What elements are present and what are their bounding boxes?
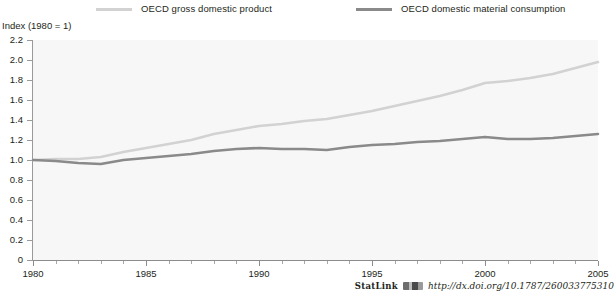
x-tick-minor — [236, 261, 237, 264]
y-tick-label: 1.2 — [0, 135, 23, 145]
x-tick-label: 1980 — [13, 269, 53, 279]
y-tick — [27, 240, 33, 241]
legend-label-gdp: OECD gross domestic product — [141, 4, 272, 14]
x-tick-minor — [395, 261, 396, 264]
x-tick-major — [598, 261, 599, 266]
y-tick-label: 0.8 — [0, 175, 23, 185]
x-tick-minor — [440, 261, 441, 264]
x-tick-label: 1990 — [239, 269, 279, 279]
x-tick-major — [485, 261, 486, 266]
y-axis-line — [32, 40, 33, 261]
x-tick-minor — [508, 261, 509, 264]
x-tick-label: 2005 — [578, 269, 616, 279]
y-tick-label: 0.6 — [0, 195, 23, 205]
x-tick-minor — [462, 261, 463, 264]
plot-area — [33, 40, 598, 260]
x-tick-minor — [327, 261, 328, 264]
y-tick — [27, 40, 33, 41]
y-tick-label: 2.2 — [0, 35, 23, 45]
x-tick-label: 1985 — [126, 269, 166, 279]
legend-swatch-dmc-icon — [356, 8, 392, 11]
y-tick-label: 1.4 — [0, 115, 23, 125]
y-axis-title: Index (1980 = 1) — [2, 20, 71, 31]
y-tick-label: 0.2 — [0, 235, 23, 245]
x-tick-minor — [56, 261, 57, 264]
x-axis-line — [32, 260, 598, 261]
statlink-footer: StatLink http://dx.doi.org/10.1787/26003… — [355, 280, 614, 292]
x-tick-minor — [304, 261, 305, 264]
legend-item-gdp: OECD gross domestic product — [96, 0, 272, 18]
x-tick-minor — [169, 261, 170, 264]
y-tick-label: 1.6 — [0, 95, 23, 105]
legend-swatch-gdp-icon — [96, 8, 132, 11]
legend-label-dmc: OECD domestic material consumption — [401, 4, 565, 14]
x-tick-minor — [78, 261, 79, 264]
x-tick-major — [146, 261, 147, 266]
statlink-label: StatLink — [355, 281, 398, 291]
x-tick-minor — [530, 261, 531, 264]
x-tick-minor — [214, 261, 215, 264]
y-tick — [27, 180, 33, 181]
statlink-barcode-icon — [403, 282, 423, 290]
x-tick-minor — [101, 261, 102, 264]
x-tick-minor — [191, 261, 192, 264]
y-tick — [27, 200, 33, 201]
x-tick-minor — [123, 261, 124, 264]
x-tick-minor — [575, 261, 576, 264]
x-tick-major — [33, 261, 34, 266]
y-tick — [27, 160, 33, 161]
x-tick-minor — [349, 261, 350, 264]
y-tick — [27, 140, 33, 141]
x-tick-label: 1995 — [352, 269, 392, 279]
y-tick — [27, 220, 33, 221]
legend-item-dmc: OECD domestic material consumption — [356, 0, 565, 18]
x-tick-minor — [553, 261, 554, 264]
y-tick-label: 1.0 — [0, 155, 23, 165]
x-tick-minor — [417, 261, 418, 264]
y-tick-label: 0 — [0, 255, 23, 265]
y-tick — [27, 60, 33, 61]
y-tick-label: 0.4 — [0, 215, 23, 225]
x-tick-label: 2000 — [465, 269, 505, 279]
x-tick-major — [259, 261, 260, 266]
chart-legend: OECD gross domestic product OECD domesti… — [0, 0, 616, 18]
statlink-url-link[interactable]: http://dx.doi.org/10.1787/260033775310 — [428, 281, 614, 291]
y-tick — [27, 120, 33, 121]
y-tick — [27, 100, 33, 101]
x-tick-major — [372, 261, 373, 266]
y-tick — [27, 80, 33, 81]
x-tick-minor — [282, 261, 283, 264]
y-tick-label: 1.8 — [0, 75, 23, 85]
y-tick-label: 2.0 — [0, 55, 23, 65]
